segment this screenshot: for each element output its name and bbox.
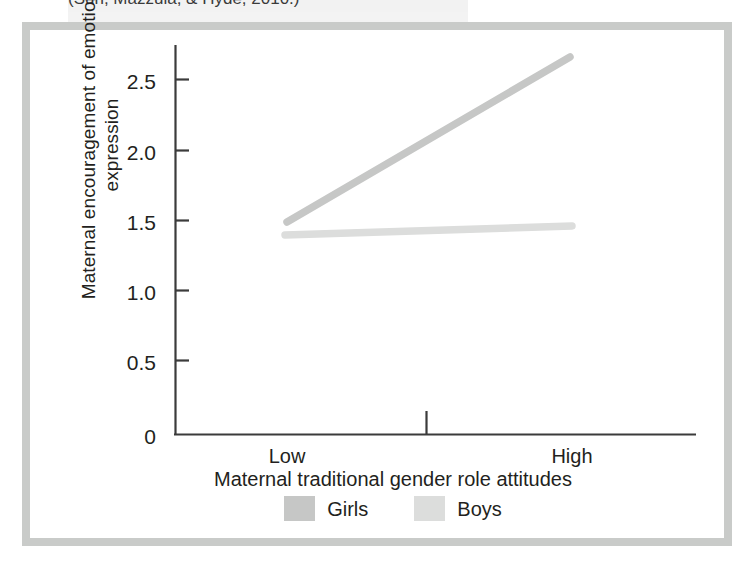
x-tick-label-high: High [502, 445, 642, 467]
y-tick-label-2-5: 2.5 [92, 71, 156, 92]
legend-swatch-boys [414, 496, 445, 521]
legend-label-boys: Boys [457, 498, 501, 520]
chart-legend: Girls Boys [113, 496, 673, 521]
y-tick-label-0: 0 [92, 426, 156, 447]
legend-entry-girls: Girls [284, 496, 368, 521]
y-tick-label-1-5: 1.5 [92, 212, 156, 233]
y-tick-label-2-0: 2.0 [92, 142, 156, 163]
legend-entry-boys: Boys [414, 496, 501, 521]
legend-swatch-girls [284, 496, 315, 521]
y-tick-label-0-5: 0.5 [92, 352, 156, 373]
y-tick-label-1-0: 1.0 [92, 282, 156, 303]
legend-label-girls: Girls [327, 498, 368, 520]
citation-strip: (Sun, Mazzula, & Hyde, 2010.) [68, 0, 468, 12]
x-tick-label-low: Low [217, 445, 357, 467]
x-axis-title: Maternal traditional gender role attitud… [113, 468, 673, 490]
